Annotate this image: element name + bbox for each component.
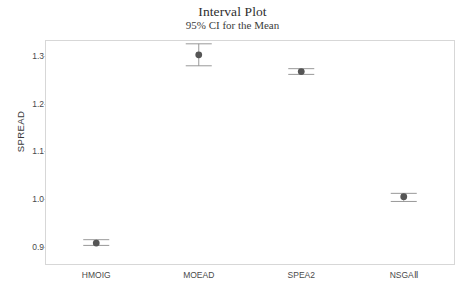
chart-title: Interval Plot <box>0 5 465 19</box>
mean-marker <box>93 240 100 247</box>
x-tick-label-1: MOEAD <box>154 270 244 280</box>
x-tick-label-3: NSGAⅡ <box>359 270 449 280</box>
chart-title-block: Interval Plot 95% CI for the Mean <box>0 5 465 32</box>
y-axis: SPREAD 0.91.01.11.21.3 <box>8 0 44 293</box>
x-tick-label-2: SPEA2 <box>256 270 346 280</box>
y-tick-label: 1.0 <box>18 194 44 204</box>
interval-series <box>83 44 417 247</box>
interval-point-3 <box>391 193 417 201</box>
mean-marker <box>298 68 305 75</box>
chart-subtitle: 95% CI for the Mean <box>0 20 465 32</box>
y-tick-label: 1.2 <box>18 99 44 109</box>
y-tick-label: 1.3 <box>18 51 44 61</box>
x-tick-label-0: HMOIG <box>51 270 141 280</box>
y-tick-label: 1.1 <box>18 146 44 156</box>
interval-plot-figure: Interval Plot 95% CI for the Mean SPREAD… <box>0 0 465 293</box>
interval-point-1 <box>186 44 212 66</box>
mean-marker <box>195 51 202 58</box>
y-tick-label: 0.9 <box>18 242 44 252</box>
interval-point-2 <box>288 68 314 75</box>
mean-marker <box>400 193 407 200</box>
plot-canvas <box>45 40 455 265</box>
interval-point-0 <box>83 240 109 247</box>
